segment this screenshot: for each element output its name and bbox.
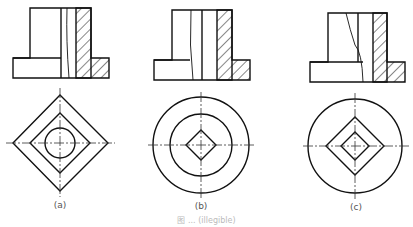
hatched-flange (232, 60, 250, 80)
hatched-wall (217, 10, 232, 80)
view-a-section (13, 8, 109, 78)
hatched-flange (91, 58, 109, 78)
label-c: (c) (350, 202, 362, 212)
break-line (67, 8, 69, 78)
label-a: (a) (54, 200, 67, 210)
hatched-flange (387, 62, 405, 82)
hatched-wall (373, 13, 387, 82)
view-c-plan (303, 93, 409, 199)
drawing-canvas (0, 0, 413, 227)
view-b-section (154, 10, 250, 80)
break-line (346, 13, 363, 82)
hatched-wall (76, 8, 91, 78)
view-b-plan (148, 92, 254, 198)
break-line (190, 10, 193, 80)
view-c-section (310, 13, 405, 82)
label-b: (b) (195, 201, 208, 211)
figure-caption: 图 ... (illegible) (177, 214, 235, 225)
view-a-plan (6, 88, 115, 197)
